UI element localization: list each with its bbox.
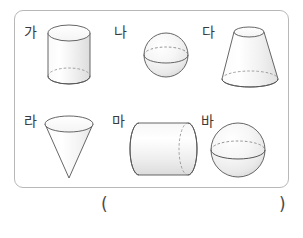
shape-label-ga: 가 bbox=[24, 25, 37, 39]
worksheet-figure: 가 나 다 라 마 바 ( ) bbox=[0, 0, 303, 238]
shape-label-na: 나 bbox=[114, 25, 127, 39]
shape-label-da: 다 bbox=[202, 25, 215, 39]
answer-row: ( ) bbox=[0, 196, 303, 226]
answer-open-paren: ( bbox=[101, 196, 108, 213]
shape-label-ba: 바 bbox=[201, 114, 214, 128]
answer-close-paren: ) bbox=[279, 196, 286, 213]
shape-label-ma: 마 bbox=[112, 114, 125, 128]
solids-panel bbox=[14, 10, 289, 188]
shape-label-ra: 라 bbox=[24, 114, 37, 128]
